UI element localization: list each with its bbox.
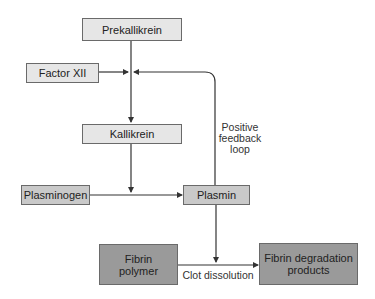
clot-dissolution-label: Clot dissolution: [178, 270, 258, 281]
node-kallikrein: Kallikrein: [82, 124, 182, 144]
node-fibrin-degradation-line2: products: [287, 264, 329, 276]
feedback-loop-label: Positive feedback loop: [212, 122, 268, 155]
feedback-label-line3: loop: [212, 144, 268, 155]
node-plasmin-label: Plasmin: [197, 189, 236, 201]
node-plasmin: Plasmin: [183, 185, 250, 205]
node-plasminogen-label: Plasminogen: [24, 189, 88, 201]
node-fibrin-polymer-line2: polymer: [119, 265, 158, 277]
node-fibrin-polymer: Fibrin polymer: [99, 244, 178, 285]
node-plasminogen: Plasminogen: [21, 185, 90, 205]
node-fibrin-degradation-line1: Fibrin degradation: [264, 252, 353, 264]
node-prekallikrein-label: Prekallikrein: [102, 24, 162, 36]
node-factor-xii-label: Factor XII: [39, 67, 87, 79]
node-fibrin-degradation-products: Fibrin degradation products: [259, 243, 358, 285]
node-prekallikrein: Prekallikrein: [82, 18, 182, 41]
node-kallikrein-label: Kallikrein: [110, 128, 155, 140]
node-fibrin-polymer-line1: Fibrin: [125, 253, 153, 265]
node-factor-xii: Factor XII: [26, 63, 99, 83]
